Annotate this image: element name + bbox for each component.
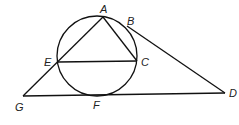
label-E: E [44,56,52,68]
segment-EC [58,61,137,62]
geometry-diagram: A B C E F G D [0,0,239,125]
label-D: D [229,87,237,99]
segment-GD [23,93,225,96]
label-F: F [93,99,101,111]
label-C: C [141,56,149,68]
label-G: G [15,101,24,113]
circle [57,16,137,96]
label-B: B [127,15,134,27]
label-A: A [99,3,107,15]
segment-AG [23,17,103,96]
